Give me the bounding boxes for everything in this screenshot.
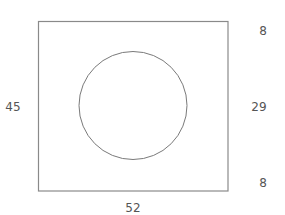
inner-circle — [79, 52, 187, 160]
outer-rectangle — [39, 22, 229, 192]
left-height-label: 45 — [5, 100, 20, 114]
diagram-canvas: 45 52 8 29 8 — [0, 0, 285, 215]
shapes-svg — [0, 0, 285, 215]
bottom-width-label: 52 — [125, 201, 140, 215]
right-middle-label: 29 — [251, 100, 266, 114]
right-bottom-label: 8 — [259, 176, 267, 190]
right-top-label: 8 — [259, 24, 267, 38]
